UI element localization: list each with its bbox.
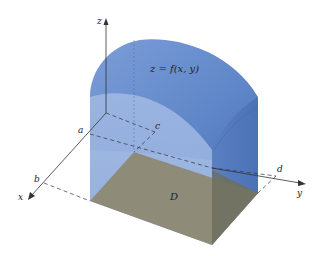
surface-label: z = f(x, y) [149,63,199,74]
y-axis-label: y [296,188,303,198]
bound-label-d: d [277,164,283,174]
bound-label-c: c [155,121,160,131]
z-axis-label: z [96,16,102,26]
bound-label-b: b [34,174,40,184]
region-label: D [169,191,178,202]
x-axis-label: x [18,192,23,202]
solid-over-rectangle-diagram: z x y a b c d z = f(x, y) D [0,0,316,256]
bound-label-a: a [78,125,83,135]
